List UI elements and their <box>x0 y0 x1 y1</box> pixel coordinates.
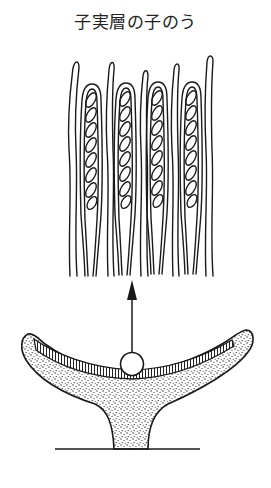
ascus <box>80 84 102 276</box>
ascus <box>180 82 202 274</box>
apothecium-cup <box>22 330 253 449</box>
arrow-icon <box>127 280 137 352</box>
apothecium-diagram <box>0 0 271 488</box>
ascus <box>114 83 136 275</box>
highlight-circle <box>121 353 144 376</box>
ascus <box>146 82 168 274</box>
hymenium-detail <box>68 56 213 276</box>
